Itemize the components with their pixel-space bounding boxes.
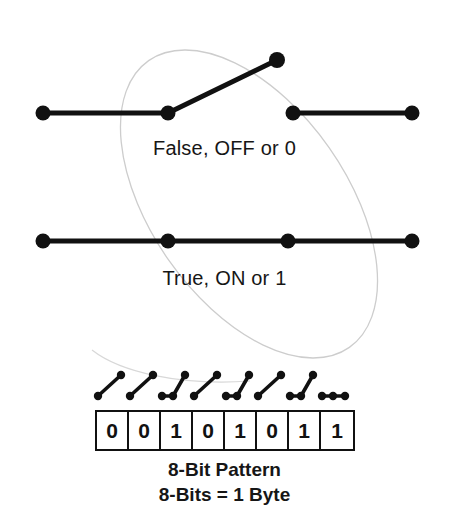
switch-dot — [277, 371, 285, 379]
switch-dot — [341, 392, 349, 400]
switch-dot — [329, 392, 337, 400]
switch-dot — [269, 52, 285, 68]
switch-dot — [297, 392, 305, 400]
switch-dot — [161, 234, 176, 249]
switch-closed — [158, 371, 189, 400]
open-switch-diagram — [36, 52, 420, 121]
switch-dot — [161, 106, 176, 121]
switch-dot — [36, 106, 51, 121]
switch-open — [94, 371, 125, 400]
caption-8-bits-equals-1-byte: 8-Bits = 1 Byte — [0, 484, 449, 506]
bit-pattern-row: 00101011 — [95, 410, 355, 451]
bit-cell: 0 — [97, 412, 129, 449]
diagram-canvas: False, OFF or 0 True, ON or 1 00101011 8… — [0, 0, 449, 530]
switch-dot — [213, 371, 221, 379]
switch-dot — [36, 234, 51, 249]
switch-dot — [158, 392, 166, 400]
switch-dot — [309, 371, 317, 379]
hand-drawn-ellipse — [68, 4, 429, 403]
switch-dot — [126, 392, 134, 400]
eight-switch-row — [94, 371, 349, 400]
switch-closed — [222, 371, 253, 400]
switch-dot — [222, 392, 230, 400]
label-on-state: True, ON or 1 — [0, 267, 449, 290]
bit-cell: 1 — [321, 412, 353, 449]
switch-dot — [94, 392, 102, 400]
switch-dot — [254, 392, 262, 400]
caption-8-bit-pattern: 8-Bit Pattern — [0, 459, 449, 481]
label-off-state: False, OFF or 0 — [0, 137, 449, 160]
bit-cell: 1 — [161, 412, 193, 449]
switch-dot — [286, 392, 294, 400]
switch-dot — [181, 371, 189, 379]
switch-dot — [190, 392, 198, 400]
switch-dot — [149, 371, 157, 379]
switch-dot — [117, 371, 125, 379]
bit-cell: 0 — [129, 412, 161, 449]
switch-dot — [233, 392, 241, 400]
switch-dot — [286, 106, 301, 121]
switch-dot — [169, 392, 177, 400]
switch-closed — [318, 392, 349, 400]
bit-cell: 0 — [193, 412, 225, 449]
switch-dot — [281, 234, 296, 249]
bit-cell: 1 — [225, 412, 257, 449]
closed-switch-diagram — [36, 234, 420, 249]
bit-cell: 1 — [289, 412, 321, 449]
switch-dot — [318, 392, 326, 400]
switch-dot — [405, 106, 420, 121]
bit-cell: 0 — [257, 412, 289, 449]
switch-closed — [286, 371, 317, 400]
switch-dot — [245, 371, 253, 379]
switch-open — [190, 371, 221, 400]
switch-dot — [405, 234, 420, 249]
switch-open — [126, 371, 157, 400]
switch-open — [254, 371, 285, 400]
